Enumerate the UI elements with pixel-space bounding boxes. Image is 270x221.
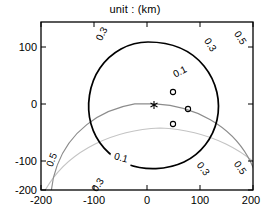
contour-plot-figure: unit : (km) 0.1 0.1 — [0, 0, 270, 221]
x-tick-label: 0 — [144, 194, 150, 206]
y-tick-label: -200 — [15, 184, 37, 196]
x-tick-label: 100 — [191, 194, 209, 206]
plot-background — [41, 22, 253, 190]
contour-chart-canvas: 0.1 0.1 0.3 0.3 0.5 0.5 0.3 — [0, 0, 270, 221]
x-tick-label: -100 — [83, 194, 105, 206]
x-tick-label: 200 — [242, 194, 260, 206]
y-tick-label: -100 — [15, 155, 37, 167]
y-tick-label: 100 — [19, 41, 37, 53]
y-tick-label: 0 — [31, 98, 37, 110]
